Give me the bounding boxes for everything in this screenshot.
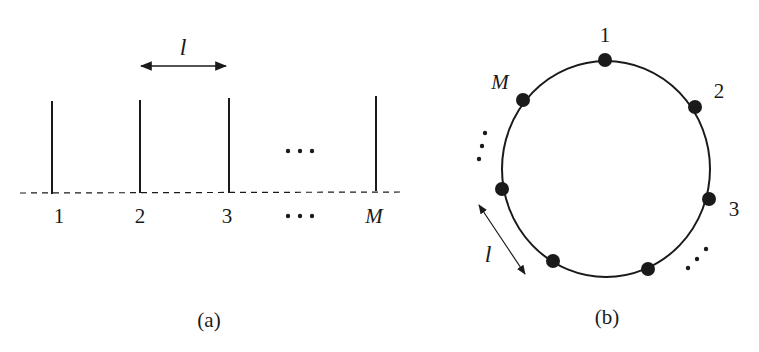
arc-spacing-label: l [485,241,492,267]
array-circle [502,61,710,277]
node-label-1: 1 [600,23,611,47]
node-1 [598,53,612,67]
element-label-m: M [364,204,384,228]
node-m [516,93,530,107]
ellipsis-bottom-right-diagonal [686,247,708,270]
caption-b: (b) [595,305,620,329]
ellipsis-left-vertical [477,131,487,161]
element-label-1: 1 [54,204,65,228]
linear-array-diagram: l 1 2 3 M (a) [20,34,405,332]
node-label-2: 2 [714,79,725,103]
element-label-3: 3 [222,204,233,228]
spacing-label: l [180,34,187,60]
ellipsis-upper [286,149,314,153]
ellipsis-lower [286,214,314,218]
node-label-3: 3 [729,197,740,221]
caption-a: (a) [197,308,220,332]
node-3 [702,192,716,206]
circular-array-diagram: 1 2 3 M l (b) [477,23,739,329]
node-6 [495,182,509,196]
node-5 [546,254,560,268]
node-label-m: M [490,70,510,94]
array-baseline-dashed [20,192,405,193]
node-4 [641,262,655,276]
figure-canvas: l 1 2 3 M (a) 1 2 3 M [0,0,759,352]
element-label-2: 2 [135,204,146,228]
node-2 [688,100,702,114]
